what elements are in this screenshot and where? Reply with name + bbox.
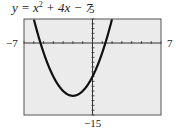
ymax-label: 5 — [89, 3, 95, 15]
xmax-label: 7 — [167, 37, 173, 49]
function-title: y = x2 + 4x − 7 — [10, 0, 93, 15]
xmin-label: −7 — [6, 37, 18, 49]
graphing-calculator-plot: y = x2 + 4x − 7 5 −7 7 −15 — [0, 0, 179, 134]
title-y: y = x — [10, 0, 39, 15]
title-rest: + 4x − 7 — [43, 0, 93, 15]
ymin-label: −15 — [84, 117, 102, 129]
